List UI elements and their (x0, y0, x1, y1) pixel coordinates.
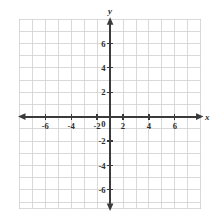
coordinate-plane-svg: -6 -4 -2 2 4 6 6 4 2 -2 -4 -6 0 x y (0, 0, 214, 217)
y-tick-label-pos4: 4 (101, 63, 106, 73)
y-tick-label-pos6: 6 (101, 39, 106, 49)
x-tick-label-pos2: 2 (121, 121, 125, 131)
x-tick-label-pos6: 6 (173, 121, 178, 131)
y-tick-label-neg6: -6 (98, 185, 106, 195)
x-tick-label-neg4: -4 (68, 121, 76, 131)
x-tick-label-neg6: -6 (42, 121, 50, 131)
x-tick-label-neg2: -2 (94, 121, 101, 131)
origin-label: 0 (101, 119, 105, 129)
y-tick-label-neg2: -2 (98, 136, 105, 146)
y-tick-label-neg4: -4 (98, 161, 106, 171)
y-tick-label-pos2: 2 (101, 87, 105, 97)
coordinate-grid-figure: -6 -4 -2 2 4 6 6 4 2 -2 -4 -6 0 x y (0, 0, 214, 217)
x-axis-name: x (204, 112, 210, 122)
x-tick-label-pos4: 4 (147, 121, 152, 131)
